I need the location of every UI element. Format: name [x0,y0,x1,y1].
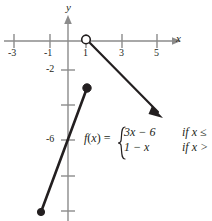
piecewise-function-figure: x y -3 -1 1 3 5 -2 -6 f(x) = 3x − 6 if x… [0,0,212,221]
y-tick-label--6: -6 [46,134,54,144]
x-axis-label: x [176,33,181,44]
formula-equals: = [104,131,111,145]
y-axis-arrowhead [64,15,72,24]
y-tick-label--2: -2 [46,64,54,74]
axes-group [4,24,172,221]
segment-line-3x-minus-6 [41,88,87,212]
x-tick-label--1: -1 [44,48,52,58]
open-circle-endpoint [82,35,91,44]
formula-case-1: 3x − 6 if x ≤ [124,125,208,140]
filled-endpoint-dot-lower [37,208,44,215]
x-tick-label-3: 3 [119,48,124,58]
formula-cases: 3x − 6 if x ≤ 1 − x if x > [124,125,208,155]
curve-branch-3x-minus-6 [37,84,91,216]
ray-line-1-minus-x [90,43,158,112]
x-tick-label-5: 5 [154,48,159,58]
formula-case-2-condition: if x > [178,140,208,155]
formula-case-2-expression: 1 − x [124,140,178,155]
formula-function-name: f(x) = [84,131,110,146]
x-tick-label--3: -3 [8,48,16,58]
ray-arrowhead [149,106,164,118]
x-tick-label-1: 1 [83,48,88,58]
formula-case-1-condition: if x ≤ [178,125,207,140]
formula-case-2: 1 − x if x > [124,140,208,155]
y-axis-label: y [66,2,71,13]
filled-endpoint-dot-upper [83,84,91,92]
formula-paren-close: ) [97,131,101,145]
formula-case-1-expression: 3x − 6 [124,125,178,140]
